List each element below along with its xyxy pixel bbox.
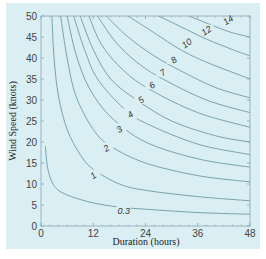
y-tick-label: 35 xyxy=(26,74,38,85)
y-tick-label: 45 xyxy=(26,32,38,43)
contour-lines xyxy=(45,16,250,214)
x-axis-label: Duration (hours) xyxy=(113,236,180,248)
contour-label: 0.3 xyxy=(117,206,130,216)
y-tick-label: 25 xyxy=(26,116,38,127)
axes: 05101520253035404550012243648 xyxy=(26,11,256,240)
contour-chart: 0.312345678101214 0510152025303540455001… xyxy=(0,0,266,259)
y-tick-label: 15 xyxy=(26,158,38,169)
y-tick-label: 40 xyxy=(26,53,38,64)
plot-frame xyxy=(41,16,250,226)
y-tick-label: 20 xyxy=(26,137,38,148)
y-tick-label: 5 xyxy=(31,200,37,211)
contour-line-3 xyxy=(67,16,250,167)
contour-line-4 xyxy=(74,16,250,155)
contour-line-14 xyxy=(189,16,250,37)
x-tick-label: 36 xyxy=(192,228,204,239)
x-tick-label: 48 xyxy=(244,228,256,239)
y-tick-label: 30 xyxy=(26,95,38,106)
contour-line-0.3 xyxy=(45,146,250,214)
y-tick-label: 10 xyxy=(26,179,38,190)
y-tick-label: 50 xyxy=(26,11,38,22)
contour-line-5 xyxy=(80,16,250,142)
x-tick-label: 12 xyxy=(88,228,100,239)
y-tick-label: 0 xyxy=(31,221,37,232)
x-tick-label: 0 xyxy=(38,228,44,239)
y-axis-label: Wind Speed (knots) xyxy=(7,81,19,161)
